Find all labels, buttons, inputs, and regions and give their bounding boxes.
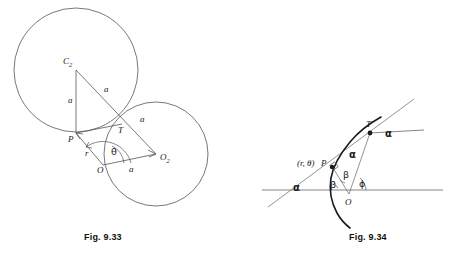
label-seg-c2-p: a bbox=[68, 95, 73, 105]
label-alpha-mid: α bbox=[349, 149, 356, 160]
ray-t-right bbox=[370, 130, 424, 133]
label-seg-c2-c1: a bbox=[104, 84, 109, 94]
label-beta-outer: β bbox=[330, 179, 336, 190]
geometry-figures-svg: C2 O2 T P O a a a a r θ (r, θ) P T O α bbox=[0, 0, 451, 257]
label-o: O bbox=[97, 165, 104, 175]
label-c1-subscript: 2 bbox=[167, 157, 171, 164]
label-alpha-at-t: α bbox=[385, 128, 392, 139]
label-p: P bbox=[67, 134, 74, 144]
label-o-34: O bbox=[345, 197, 352, 207]
label-p-34: P bbox=[320, 158, 327, 168]
label-t: T bbox=[118, 125, 124, 135]
figure-9-34: (r, θ) P T O α α α β β ϕ bbox=[262, 99, 443, 228]
arrowhead-o-p bbox=[76, 133, 83, 139]
label-phi: ϕ bbox=[359, 178, 365, 189]
label-c2: C2 bbox=[63, 56, 73, 68]
arc-angle-beta-inner bbox=[340, 180, 345, 183]
label-polar-coords: (r, θ) bbox=[297, 158, 314, 168]
arrowhead-o-c1 bbox=[148, 150, 156, 157]
label-alpha-left: α bbox=[293, 182, 300, 193]
figure-9-33: C2 O2 T P O a a a a r θ bbox=[14, 8, 208, 206]
figure-caption-9-34: Fig. 9.34 bbox=[349, 232, 387, 242]
label-radius-r: r bbox=[85, 148, 89, 158]
figure-caption-9-33: Fig. 9.33 bbox=[84, 232, 122, 242]
label-beta-inner: β bbox=[343, 169, 349, 180]
point-marker-p bbox=[330, 165, 334, 169]
segment-p-to-o-ray bbox=[76, 133, 103, 165]
label-c1: O2 bbox=[160, 152, 171, 164]
segment-p-o-t bbox=[76, 124, 122, 133]
equiangular-spiral-curve bbox=[330, 117, 381, 228]
label-c2-subscript: 2 bbox=[69, 61, 73, 68]
segment-c2-c1 bbox=[76, 70, 156, 154]
label-seg-t-c1: a bbox=[140, 114, 145, 124]
label-angle-theta: θ bbox=[111, 146, 117, 157]
point-marker-t bbox=[368, 131, 373, 136]
label-seg-o-c1: a bbox=[129, 164, 134, 174]
figures-canvas: C2 O2 T P O a a a a r θ (r, θ) P T O α bbox=[0, 0, 451, 257]
